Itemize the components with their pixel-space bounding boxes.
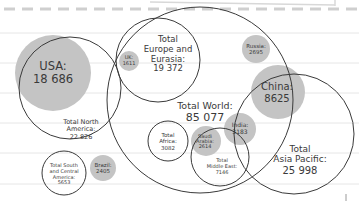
asia-pacific-label: Total Asia Pacific: 25 998 [273,144,326,176]
usa-label: USA: 18 686 [33,60,73,86]
middle-east-label: Total Middle East: 7146 [207,158,238,175]
brazil-value: 2405 [94,168,111,174]
south-central-america-label: Total South and Central America: 5653 [49,163,78,186]
uk-value: 1611 [123,61,136,67]
africa-value: 3082 [159,144,177,150]
middle-east-value: 7146 [207,170,238,176]
russia-value: 2695 [246,49,266,55]
top-edge [150,2,335,5]
africa-label: Total Africa: 3082 [159,132,177,151]
world-value: 85 077 [177,111,233,124]
asia-pacific-name-1: Total [273,144,326,154]
north-america-label: Total North America: 22 826 [63,119,98,141]
bubble-diagram: USA: 18 686 Total North America: 22 826 … [0,0,359,205]
saudi-value: 2614 [196,144,214,149]
north-america-value: 22 826 [63,134,98,141]
saudi-arabia-label: Saudi Arabia: 2614 [196,134,214,149]
europe-value: 19 372 [144,65,193,75]
uk-label: UK: 1611 [123,55,136,67]
world-label: Total World: 85 077 [177,100,233,125]
brazil-label: Brazil: 2405 [94,162,111,175]
china-name: China: [261,81,293,93]
india-value: 3183 [232,129,249,136]
china-label: China: 8625 [261,81,293,104]
africa-name-2: Africa: [159,138,177,144]
europe-eurasia-label: Total Europe and Eurasia: 19 372 [144,35,193,74]
china-value: 8625 [261,92,293,104]
usa-value: 18 686 [33,73,73,86]
asia-pacific-value: 25 998 [273,165,326,177]
india-label: India: 3183 [232,122,249,136]
world-name: Total World: [177,100,233,111]
sca-value: 5653 [49,180,78,186]
asia-pacific-name-2: Asia Pacific: [273,154,326,164]
russia-label: Russia: 2695 [246,43,266,56]
